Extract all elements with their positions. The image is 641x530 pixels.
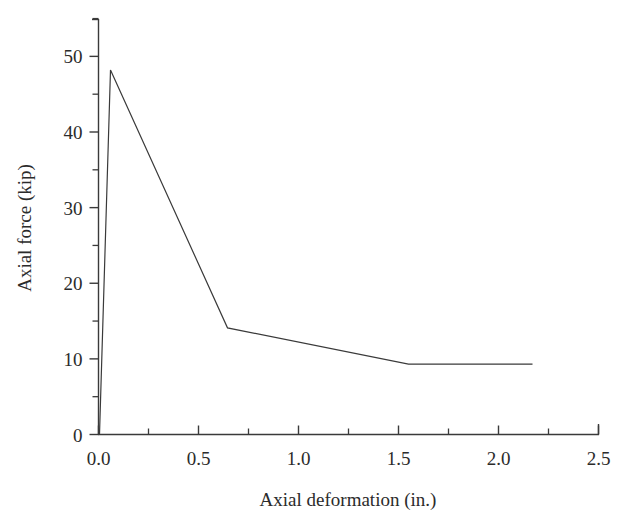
x-tick-label: 1.5	[387, 448, 411, 469]
y-tick-label: 0	[73, 425, 83, 446]
y-axis-tick-labels: 01020304050	[64, 46, 83, 445]
y-tick-label: 20	[64, 273, 83, 294]
y-tick-label: 30	[64, 198, 83, 219]
axis-spines	[92, 19, 599, 435]
x-tick-label: 2.0	[487, 448, 511, 469]
axial-force-deformation-chart: 01020304050 0.00.51.01.52.02.5 Axial def…	[0, 0, 641, 530]
x-tick-label: 1.0	[287, 448, 311, 469]
y-tick-label: 40	[64, 122, 83, 143]
data-series-group	[100, 70, 533, 435]
y-axis-title: Axial force (kip)	[14, 164, 36, 292]
x-axis-minor-ticks	[149, 429, 549, 435]
x-axis-title: Axial deformation (in.)	[260, 489, 437, 511]
x-axis-tick-labels: 0.00.51.01.52.02.5	[87, 448, 611, 469]
y-tick-label: 50	[64, 46, 83, 67]
x-tick-label: 2.5	[587, 448, 611, 469]
x-tick-label: 0.5	[187, 448, 211, 469]
series-line	[100, 70, 533, 435]
x-tick-label: 0.0	[87, 448, 111, 469]
chart-figure: 01020304050 0.00.51.01.52.02.5 Axial def…	[0, 0, 641, 530]
y-tick-label: 10	[64, 349, 83, 370]
